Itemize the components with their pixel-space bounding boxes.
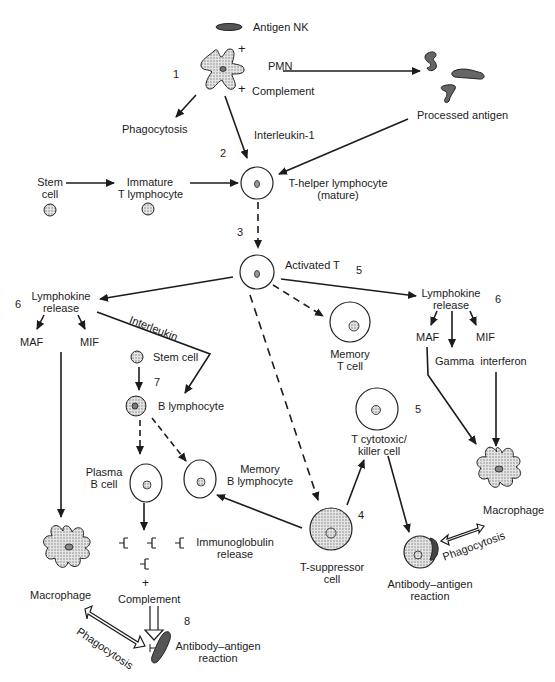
plus-sign: + xyxy=(142,577,149,589)
t-cytotoxic-line1: T cytotoxic/ xyxy=(344,433,414,445)
antigen-nk-icon xyxy=(216,24,242,31)
t-suppressor-cell-label: T-suppressor cell xyxy=(300,561,364,585)
immunoglobulin-line1: Immunoglobulin xyxy=(195,536,275,548)
gamma-interferon-label: Gamma interferon xyxy=(435,355,527,367)
t-suppressor-line1: T-suppressor xyxy=(300,561,364,573)
immature-t-icon xyxy=(142,203,154,215)
activated-t-label: Activated T xyxy=(285,259,340,271)
ab-ag-right-line1: Antibody–antigen xyxy=(384,578,476,590)
stem-cell-label-line2: cell xyxy=(30,188,70,200)
lymphokine-left-line2: release xyxy=(30,302,92,314)
step-number-5: 5 xyxy=(356,264,362,276)
plus-sign: + xyxy=(238,43,246,55)
t-helper-label: T-helper lymphocyte (mature) xyxy=(283,177,393,201)
stem-cell-b-icon xyxy=(131,351,143,363)
step-number-6: 6 xyxy=(495,293,501,305)
plus-sign: + xyxy=(238,83,246,95)
memory-t-cell-label: Memory T cell xyxy=(325,348,375,372)
antibody-antigen-bottom-label: Antibody–antigen reaction xyxy=(172,640,264,664)
antigen-nk-label: Antigen NK xyxy=(253,21,309,33)
step-number-7: 7 xyxy=(154,376,160,388)
macrophage-left-icon xyxy=(44,526,90,568)
t-cytotoxic-label: T cytotoxic/ killer cell xyxy=(344,433,414,457)
macrophage-left-label: Macrophage xyxy=(30,589,91,601)
immature-t-label-line2: T lymphocyte xyxy=(118,188,182,200)
immature-t-label: Immature T lymphocyte xyxy=(118,176,182,200)
ab-ag-bottom-line1: Antibody–antigen xyxy=(172,640,264,652)
t-cytotoxic-cell-icon xyxy=(356,388,398,430)
mif-left-label: MIF xyxy=(80,336,99,348)
lymphokine-release-right-label: Lymphokine release xyxy=(420,287,482,311)
antibody-antigen-right-icon xyxy=(404,536,438,568)
mif-right-label: MIF xyxy=(476,331,495,343)
pmn-label: PMN xyxy=(268,60,292,72)
stem-cell-t-icon xyxy=(44,204,56,216)
memory-t-cell-icon xyxy=(330,302,370,342)
step-number-1: 1 xyxy=(173,68,179,80)
memory-t-line2: T cell xyxy=(325,360,375,372)
step-number-6: 6 xyxy=(15,298,21,310)
immunoglobulin-release-label: Immunoglobulin release xyxy=(195,536,275,560)
t-suppressor-line2: cell xyxy=(300,573,364,585)
macrophage-right-label: Macrophage xyxy=(483,504,544,516)
stem-cell-b-label: Stem cell xyxy=(153,351,198,363)
maf-right-label: MAF xyxy=(416,331,439,343)
memory-t-line1: Memory xyxy=(325,348,375,360)
immunoglobulin-line2: release xyxy=(195,548,275,560)
t-helper-cell-icon xyxy=(241,167,273,199)
lymphokine-right-line1: Lymphokine xyxy=(420,287,482,299)
complement-top-label: Complement xyxy=(252,85,314,97)
step-number-4: 4 xyxy=(358,509,364,521)
plasma-line2: B cell xyxy=(82,478,126,490)
processed-antigen-label: Processed antigen xyxy=(417,109,508,121)
memory-b-lymphocyte-label: Memory B lymphocyte xyxy=(220,463,300,487)
macrophage-right-icon xyxy=(477,447,521,487)
lymphokine-release-left-label: Lymphokine release xyxy=(30,290,92,314)
complement-arrow xyxy=(145,606,163,640)
plasma-line1: Plasma xyxy=(82,466,126,478)
maf-left-label: MAF xyxy=(20,336,43,348)
ab-ag-right-line2: reaction xyxy=(384,590,476,602)
step-number-8: 8 xyxy=(184,615,190,627)
t-helper-label-line2: (mature) xyxy=(283,189,393,201)
immature-t-label-line1: Immature xyxy=(118,176,182,188)
t-helper-label-line1: T-helper lymphocyte xyxy=(283,177,393,189)
lymphokine-left-line1: Lymphokine xyxy=(30,290,92,302)
memory-b-line2: B lymphocyte xyxy=(220,475,300,487)
ab-ag-bottom-line2: reaction xyxy=(172,652,264,664)
step-number-2: 2 xyxy=(220,147,226,159)
step-number-3: 3 xyxy=(237,226,243,238)
plasma-b-cell-icon xyxy=(130,464,162,502)
processed-antigen-icon xyxy=(425,52,484,103)
stem-cell-label: Stem cell xyxy=(30,176,70,200)
phagocytosis-top-label: Phagocytosis xyxy=(122,123,187,135)
stem-cell-label-line1: Stem xyxy=(30,176,70,188)
t-suppressor-cell-icon xyxy=(310,508,352,550)
antibody-antigen-right-label: Antibody–antigen reaction xyxy=(384,578,476,602)
lymphokine-right-line2: release xyxy=(420,299,482,311)
memory-b-line1: Memory xyxy=(220,463,300,475)
b-lymphocyte-icon xyxy=(126,396,146,416)
plasma-b-cell-label: Plasma B cell xyxy=(82,466,126,490)
t-cytotoxic-line2: killer cell xyxy=(344,445,414,457)
memory-b-cell-icon xyxy=(184,460,216,498)
b-lymphocyte-label: B lymphocyte xyxy=(158,400,224,412)
activated-t-cell-icon xyxy=(240,255,274,289)
step-number-5: 5 xyxy=(415,403,421,415)
interleukin-1-label: Interleukin-1 xyxy=(254,129,315,141)
complement-bottom-label: Complement xyxy=(118,593,180,605)
immunoglobulin-icon xyxy=(119,538,184,569)
